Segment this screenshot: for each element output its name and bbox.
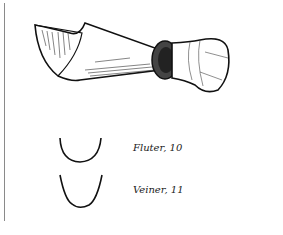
figure-page: Fluter, 10 Veiner, 11 bbox=[0, 0, 283, 235]
veiner-profile-icon bbox=[57, 172, 105, 212]
fluter-caption: Fluter, 10 bbox=[133, 142, 182, 153]
veiner-caption: Veiner, 11 bbox=[133, 184, 184, 195]
gouge-tool-icon bbox=[0, 0, 283, 120]
fluter-profile-icon bbox=[57, 135, 105, 165]
